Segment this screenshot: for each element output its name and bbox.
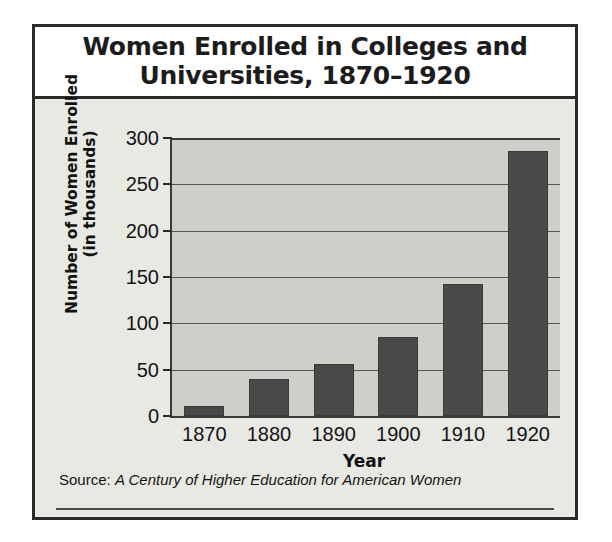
chart-body: Number of Women Enrolled (in thousands) …	[35, 99, 575, 517]
source-title: A Century of Higher Education for Americ…	[115, 471, 462, 488]
y-axis-tick-label: 0	[148, 405, 159, 428]
source-note: Source: A Century of Higher Education fo…	[59, 471, 461, 488]
y-axis-tick-label: 200	[126, 219, 159, 242]
gridline	[172, 323, 560, 324]
bar-1910	[443, 284, 483, 416]
y-axis-tick	[163, 369, 172, 371]
y-axis-tick-label: 50	[137, 358, 159, 381]
x-axis-tick-label: 1880	[247, 423, 292, 446]
chart-title-line-2: Universities, 1870–1920	[139, 62, 470, 91]
gridline	[172, 370, 560, 371]
chart-title-band: Women Enrolled in Colleges and Universit…	[35, 27, 575, 99]
y-axis-tick-label: 150	[126, 266, 159, 289]
chart-title-line-1: Women Enrolled in Colleges and	[82, 33, 527, 62]
y-axis-tick-label: 300	[126, 127, 159, 150]
source-divider	[56, 508, 554, 510]
x-axis-label: Year	[170, 451, 558, 471]
x-axis-tick-label: 1870	[182, 423, 227, 446]
y-axis-tick-label: 250	[126, 173, 159, 196]
plot-area: 3002502001501005001870188018901900191019…	[170, 138, 560, 418]
y-axis-tick	[163, 230, 172, 232]
x-axis-tick-label: 1920	[505, 423, 550, 446]
bar-1920	[508, 151, 548, 416]
y-axis-tick-label: 100	[126, 312, 159, 335]
y-axis-tick	[163, 276, 172, 278]
source-label: Source:	[59, 471, 111, 488]
gridline	[172, 231, 560, 232]
y-axis-tick	[163, 415, 172, 417]
y-axis-label-line-2: (in thousands)	[81, 130, 99, 257]
bar-1890	[314, 364, 354, 416]
bar-1870	[184, 406, 224, 416]
x-axis-tick-label: 1900	[376, 423, 421, 446]
y-axis-tick	[163, 322, 172, 324]
bar-1880	[249, 379, 289, 416]
chart-figure: Women Enrolled in Colleges and Universit…	[32, 24, 578, 520]
y-axis-tick	[163, 137, 172, 139]
bar-1900	[378, 337, 418, 416]
gridline	[172, 277, 560, 278]
gridline	[172, 138, 560, 140]
x-axis-tick-label: 1910	[441, 423, 486, 446]
y-axis-label: Number of Women Enrolled (in thousands)	[61, 69, 101, 319]
x-axis-tick-label: 1890	[311, 423, 356, 446]
gridline	[172, 184, 560, 185]
y-axis-tick	[163, 183, 172, 185]
y-axis-label-line-1: Number of Women Enrolled	[63, 74, 81, 314]
